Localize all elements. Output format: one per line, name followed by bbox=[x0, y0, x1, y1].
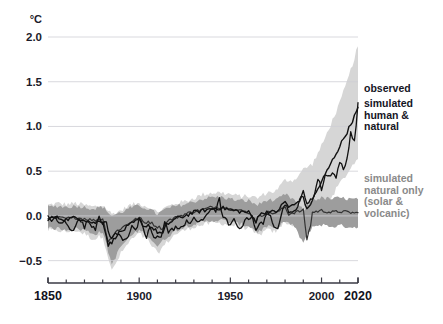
legend-simulated-natural-only: volcanic) bbox=[364, 207, 410, 219]
legend-simulated-human-natural: natural bbox=[364, 120, 399, 132]
y-tick-label: 0.0 bbox=[26, 210, 42, 222]
axis-layer bbox=[48, 278, 358, 284]
y-tick-label: −0.5 bbox=[19, 255, 42, 267]
y-tick-label: 0.5 bbox=[26, 165, 43, 177]
climate-attribution-chart: −0.50.00.51.01.52.0°C1850190019502000202… bbox=[0, 0, 443, 324]
legend-layer: observedsimulatedhuman &naturalsimulated… bbox=[364, 82, 424, 219]
legend-simulated-natural-only: natural only bbox=[364, 184, 424, 196]
y-tick-label: 2.0 bbox=[26, 31, 42, 43]
x-tick-label: 1900 bbox=[126, 290, 152, 302]
x-tick-label: 1950 bbox=[218, 290, 244, 302]
x-tick-label: 1850 bbox=[34, 289, 62, 303]
legend-simulated-human-natural: simulated bbox=[364, 97, 413, 109]
x-tick-label: 2020 bbox=[344, 289, 372, 303]
uncertainty-bands-layer bbox=[48, 46, 358, 270]
y-tick-label: 1.5 bbox=[26, 76, 43, 88]
y-axis-unit-label: °C bbox=[30, 13, 42, 25]
legend-simulated-natural-only: (solar & bbox=[364, 195, 404, 207]
legend-observed: observed bbox=[364, 82, 411, 94]
x-tick-label: 2000 bbox=[309, 290, 335, 302]
chart-canvas: −0.50.00.51.01.52.0°C1850190019502000202… bbox=[0, 0, 443, 324]
band-human_natural_range bbox=[48, 46, 358, 270]
y-tick-label: 1.0 bbox=[26, 120, 42, 132]
legend-simulated-human-natural: human & bbox=[364, 109, 409, 121]
legend-simulated-natural-only: simulated bbox=[364, 172, 413, 184]
